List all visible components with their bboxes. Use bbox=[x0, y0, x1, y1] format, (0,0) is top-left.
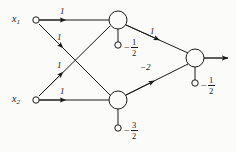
bias-terminal-h2[interactable] bbox=[115, 125, 121, 131]
bias-h1-numerator: 1 bbox=[131, 38, 137, 47]
edge-x2-h1-arrow bbox=[39, 74, 61, 96]
bias-h1-denominator: 2 bbox=[131, 48, 137, 57]
neural-network-diagram: x1 x2 1 1 1 1 1 −2 − 1 2 − 3 2 − 1 2 bbox=[0, 0, 236, 152]
edge-h2-out-arrow bbox=[126, 82, 152, 95]
bias-h1-sign: − bbox=[124, 43, 130, 53]
input-label-x1-subscript: 1 bbox=[16, 18, 20, 26]
bias-h2-denominator: 2 bbox=[131, 131, 137, 140]
bias-terminal-out[interactable] bbox=[192, 80, 198, 86]
bias-out-denominator: 2 bbox=[208, 86, 214, 95]
input-label-x2: x2 bbox=[12, 94, 20, 106]
weight-label-x2-h2: 1 bbox=[60, 87, 65, 96]
weight-label-h1-out: 1 bbox=[150, 27, 155, 36]
weight-label-x1-h1: 1 bbox=[60, 7, 65, 16]
bias-h2-sign: − bbox=[124, 126, 130, 136]
output-unit[interactable] bbox=[186, 49, 204, 67]
bias-terminal-h1[interactable] bbox=[115, 42, 121, 48]
bias-h1-fraction: 1 2 bbox=[131, 38, 138, 57]
hidden-unit-top[interactable] bbox=[109, 11, 127, 29]
weight-label-x2-h1: 1 bbox=[57, 61, 62, 70]
input-label-x2-subscript: 2 bbox=[16, 98, 20, 106]
bias-h2-numerator: 3 bbox=[131, 121, 137, 130]
bias-h2-fraction: 3 2 bbox=[131, 121, 138, 140]
input-terminal-x1[interactable] bbox=[33, 17, 39, 23]
bias-label-out: − 1 2 bbox=[201, 76, 215, 95]
bias-label-h1: − 1 2 bbox=[124, 38, 138, 57]
weight-label-x1-h2: 1 bbox=[57, 33, 62, 42]
bias-out-fraction: 1 2 bbox=[208, 76, 215, 95]
hidden-unit-bottom[interactable] bbox=[109, 91, 127, 109]
bias-out-numerator: 1 bbox=[208, 76, 214, 85]
weight-label-h2-out: −2 bbox=[140, 63, 151, 72]
bias-out-sign: − bbox=[201, 81, 207, 91]
bias-label-h2: − 3 2 bbox=[124, 121, 138, 140]
input-label-x1: x1 bbox=[12, 14, 20, 26]
input-terminal-x2[interactable] bbox=[33, 97, 39, 103]
